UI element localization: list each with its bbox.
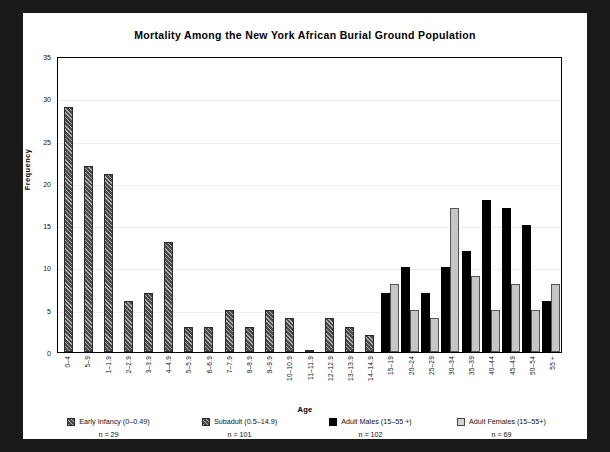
x-axis-tick: 8–8.9 [245,356,252,373]
x-axis-tick: 50–54 [528,356,535,375]
bar [265,310,274,352]
x-axis-tick-slot: 15–19 [380,354,400,406]
y-axis-tick: 25 [43,138,51,145]
bar [184,327,193,352]
x-axis-tick: 1–1.9 [104,356,111,373]
x-axis-tick-slot: 9–9.9 [259,354,279,406]
bar [64,107,73,352]
x-axis-tick: 6–6.9 [205,356,212,373]
bar [84,166,93,352]
x-axis-tick: 12–12.9 [326,356,333,381]
legend-label: Adult Males (15–55 +) [341,417,412,426]
x-axis-tick: 45–49 [508,356,515,375]
bar [551,284,560,352]
x-axis-tick: 0–4 [64,356,71,367]
legend-label: Early Infancy (0–0.49) [79,417,149,426]
x-axis-tick-slot: 5–5.9 [178,354,198,406]
legend-item: Adult Females (15–55+)n = 69 [436,417,567,439]
legend: Early Infancy (0–0.49)n = 29Subadult (0.… [43,417,567,439]
bar-group [461,58,481,352]
bar-group [320,58,340,352]
bar-group [279,58,299,352]
legend-row: Adult Males (15–55 +) [305,417,436,426]
x-axis-tick: 20–24 [407,356,414,375]
x-axis-tick-slot: 7–7.9 [219,354,239,406]
bar [325,318,334,352]
bar-group [139,58,159,352]
y-axis-tick: 0 [47,350,51,357]
y-axis-tick: 20 [43,180,51,187]
legend-sample-size: n = 29 [43,430,174,439]
plot-area [57,57,562,353]
x-axis-tick-slot: 12–12.9 [320,354,340,406]
x-axis-tick: 9–9.9 [266,356,273,373]
bar [430,318,439,352]
x-axis-tick-slot: 4–4.9 [158,354,178,406]
x-axis-tick: 7–7.9 [225,356,232,373]
bar [471,276,480,352]
bar [285,318,294,352]
bar [124,301,133,352]
x-axis-tick-slot: 14–14.9 [360,354,380,406]
bar [381,293,390,352]
x-axis-tick: 5–9 [84,356,91,367]
bar-group [239,58,259,352]
bar-group [481,58,501,352]
bar [531,310,540,352]
x-axis-tick-slot: 5–9 [77,354,97,406]
bar [542,301,551,352]
bar [164,242,173,352]
bar [144,293,153,352]
bar [225,310,234,352]
legend-sample-size: n = 102 [305,430,436,439]
legend-label: Adult Females (15–55+) [469,417,546,426]
bar [462,251,471,352]
chart-title: Mortality Among the New York African Bur… [23,29,587,41]
x-axis-tick-slot: 10–10.9 [279,354,299,406]
bar [482,200,491,352]
y-axis-tick: 15 [43,223,51,230]
x-axis-tick-slot: 45–49 [501,354,521,406]
x-axis-tick: 13–13.9 [346,356,353,381]
x-axis-tick: 25–29 [427,356,434,375]
x-axis-tick: 3–3.9 [144,356,151,373]
x-axis-tick-slot: 55 + [542,354,562,406]
bar-group [118,58,138,352]
legend-swatch-icon [67,418,75,426]
x-axis-tick-slot: 25–29 [421,354,441,406]
bar [502,208,511,352]
bar-group [259,58,279,352]
x-axis-tick-slot: 40–44 [481,354,501,406]
bar-group [98,58,118,352]
legend-label: Subadult (0.5–14.9) [214,417,277,426]
bar [491,310,500,352]
x-axis-tick: 5–5.9 [185,356,192,373]
bar [401,267,410,352]
x-axis-tick: 10–10.9 [286,356,293,381]
bar-group [219,58,239,352]
bar-group [58,58,78,352]
y-axis: 05101520253035 [23,57,55,353]
x-axis-tick-slot: 11–11.9 [299,354,319,406]
x-axis-tick: 15–19 [387,356,394,375]
x-axis-tick-labels: 0–45–91–1.92–2.93–3.94–4.95–5.96–6.97–7.… [57,354,562,406]
bar-group [340,58,360,352]
legend-item: Subadult (0.5–14.9)n = 101 [174,417,305,439]
chart-figure: Mortality Among the New York African Bur… [23,13,587,439]
x-axis-tick: 2–2.9 [124,356,131,373]
bar [104,174,113,352]
bar [441,267,450,352]
x-axis-tick-slot: 35–39 [461,354,481,406]
bar-series-container [58,58,561,352]
x-axis-tick: 35–39 [468,356,475,375]
bar [522,225,531,352]
y-axis-tick: 30 [43,96,51,103]
bar-group [78,58,98,352]
bar [511,284,520,352]
legend-row: Subadult (0.5–14.9) [174,417,305,426]
bar-group [360,58,380,352]
bar-group [400,58,420,352]
bar-group [541,58,561,352]
bar [421,293,430,352]
legend-item: Early Infancy (0–0.49)n = 29 [43,417,174,439]
